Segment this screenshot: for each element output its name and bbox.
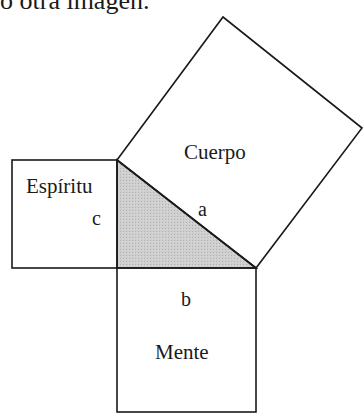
label-a: a xyxy=(198,198,207,220)
label-espiritu: Espíritu xyxy=(26,174,93,198)
label-mente: Mente xyxy=(155,340,209,364)
pythagoras-diagram: Cuerpo a Espíritu c b Mente xyxy=(0,0,364,418)
label-cuerpo: Cuerpo xyxy=(184,140,246,164)
label-b: b xyxy=(181,288,191,310)
label-c: c xyxy=(92,207,101,229)
